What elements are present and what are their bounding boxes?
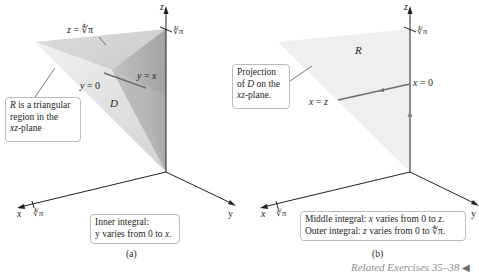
- x-equals-z-label: x = z: [309, 96, 328, 107]
- region-R-label: R: [355, 45, 362, 56]
- y-axis-label-b: y: [471, 208, 476, 219]
- caption-a: (a): [126, 249, 137, 259]
- projection-region-R: [278, 29, 410, 172]
- y-axis-arrow-icon: [228, 200, 236, 206]
- region-D-label: D: [110, 98, 118, 109]
- y-axis-b: [410, 172, 476, 204]
- z-axis-b-arrow-icon: [408, 6, 413, 14]
- x-axis-label-b: x: [261, 208, 265, 219]
- y-axis: [166, 172, 233, 204]
- z-axis-arrow-icon: [164, 6, 169, 14]
- y-axis-label-a: y: [228, 208, 233, 219]
- caption-b: (b): [372, 249, 383, 259]
- z-axis-label-b: z: [404, 1, 408, 12]
- leader-region-callout: [35, 68, 55, 97]
- y-axis-b-arrow-icon: [471, 200, 479, 206]
- related-exercises-link[interactable]: Related Exercises 35–38 ◀: [351, 261, 470, 273]
- z-axis-label-a: z: [160, 1, 164, 12]
- inner-integral-callout: Inner integral: y varies from 0 to x.: [90, 214, 180, 244]
- z-tick-label-b: ∜π: [417, 26, 427, 37]
- middle-outer-integral-callout: Middle integral: x varies from 0 to z. O…: [300, 211, 466, 241]
- x-tick-label-b: ∜π: [276, 208, 286, 219]
- x-equals-0-label: x = 0: [413, 77, 433, 88]
- top-surface-label: z = ∜π: [67, 24, 93, 35]
- x-tick-label-a: ∜π: [33, 208, 43, 219]
- y-equals-x-label: y = x: [137, 70, 157, 81]
- projection-callout: Projection of D on the xz-plane.: [232, 64, 290, 109]
- leader-projection-callout: [290, 66, 312, 81]
- x-axis-label-a: x: [17, 208, 21, 219]
- region-R-callout: R is a triangular region in the xz-plane: [5, 97, 81, 142]
- x-axis: [20, 172, 166, 207]
- x-tick-b: [276, 201, 278, 208]
- x-axis-b: [263, 172, 410, 207]
- y-equals-0-label: y = 0: [80, 80, 100, 91]
- z-tick-label-a: ∜π: [173, 26, 183, 37]
- arrow-left-icon: ◀: [462, 262, 470, 273]
